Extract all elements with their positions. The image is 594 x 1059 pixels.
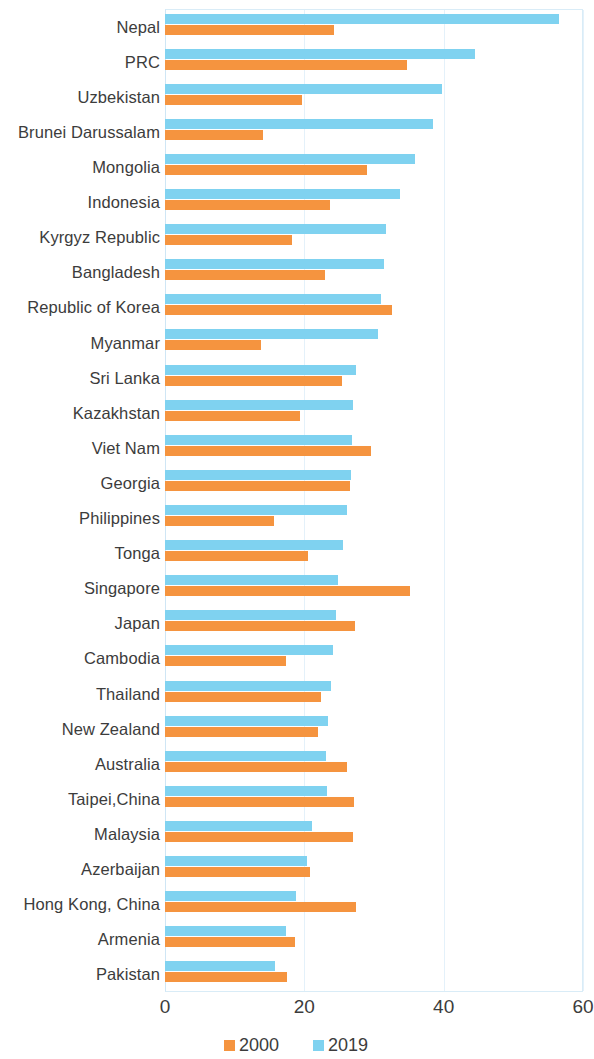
category-label: Thailand	[96, 684, 160, 703]
category-label: PRC	[125, 52, 160, 71]
category-label: Georgia	[101, 473, 160, 492]
chart-row: Thailand	[0, 676, 592, 711]
bar-2000	[165, 551, 308, 561]
bar-2000	[165, 446, 371, 456]
bar-2000	[165, 902, 356, 912]
x-axis: 0204060	[0, 996, 592, 1026]
bar-2019	[165, 84, 442, 94]
bar-2000	[165, 235, 292, 245]
legend-label: 2000	[239, 1035, 279, 1056]
category-label: Hong Kong, China	[24, 895, 160, 914]
bar-2000	[165, 376, 342, 386]
bar-2019	[165, 751, 326, 761]
chart-row: Armenia	[0, 922, 592, 957]
bar-2019	[165, 224, 386, 234]
legend-entry-2019[interactable]: 2019	[313, 1035, 368, 1056]
chart-row: Bangladesh	[0, 255, 592, 290]
category-label: New Zealand	[62, 719, 160, 738]
chart-row: Myanmar	[0, 325, 592, 360]
category-label: Kazakhstan	[73, 403, 160, 422]
bar-2019	[165, 189, 400, 199]
category-label: Nepal	[116, 17, 160, 36]
bar-2019	[165, 400, 353, 410]
chart-row: Philippines	[0, 501, 592, 536]
chart-row: Mongolia	[0, 149, 592, 184]
bar-2019	[165, 645, 333, 655]
bar-2000	[165, 270, 325, 280]
chart-row: Georgia	[0, 465, 592, 500]
category-label: Armenia	[98, 930, 160, 949]
category-label: Indonesia	[88, 193, 160, 212]
chart-row: Singapore	[0, 571, 592, 606]
bar-2019	[165, 329, 378, 339]
chart-row: Pakistan	[0, 957, 592, 992]
category-label: Sri Lanka	[89, 368, 160, 387]
bar-2000	[165, 165, 367, 175]
bar-2019	[165, 891, 296, 901]
bar-2019	[165, 49, 475, 59]
category-label: Myanmar	[91, 333, 160, 352]
bar-2000	[165, 692, 321, 702]
category-label: Uzbekistan	[77, 87, 160, 106]
bar-2000	[165, 411, 300, 421]
chart-row: Viet Nam	[0, 430, 592, 465]
category-label: Brunei Darussalam	[18, 122, 160, 141]
bar-2000	[165, 656, 286, 666]
bar-2019	[165, 435, 352, 445]
bar-2000	[165, 305, 392, 315]
category-label: Singapore	[84, 579, 160, 598]
x-tick-label: 60	[572, 996, 593, 1018]
bar-2000	[165, 797, 354, 807]
bar-2019	[165, 856, 307, 866]
bar-2000	[165, 25, 334, 35]
chart-rows: NepalPRCUzbekistanBrunei DarussalamMongo…	[0, 9, 592, 992]
category-label: Viet Nam	[92, 438, 160, 457]
bar-2019	[165, 716, 328, 726]
chart-row: New Zealand	[0, 711, 592, 746]
x-tick-label: 20	[294, 996, 315, 1018]
category-label: Azerbaijan	[81, 860, 160, 879]
bar-2000	[165, 60, 407, 70]
bar-2000	[165, 621, 355, 631]
legend-swatch-icon	[313, 1040, 324, 1051]
bar-2019	[165, 786, 327, 796]
bar-2000	[165, 937, 295, 947]
bar-2000	[165, 200, 330, 210]
chart-legend: 20002019	[0, 1031, 592, 1059]
legend-entry-2000[interactable]: 2000	[224, 1035, 279, 1056]
category-label: Taipei,China	[68, 789, 160, 808]
bar-2019	[165, 540, 343, 550]
category-label: Cambodia	[84, 649, 160, 668]
chart-row: Republic of Korea	[0, 290, 592, 325]
bar-2019	[165, 119, 433, 129]
chart-row: Australia	[0, 746, 592, 781]
legend-label: 2019	[328, 1035, 368, 1056]
category-label: Bangladesh	[72, 263, 160, 282]
legend-swatch-icon	[224, 1040, 235, 1051]
bar-2019	[165, 470, 351, 480]
bar-2019	[165, 154, 415, 164]
category-label: Australia	[95, 754, 160, 773]
bar-2000	[165, 95, 302, 105]
chart-row: Sri Lanka	[0, 360, 592, 395]
bar-2019	[165, 961, 275, 971]
bar-2000	[165, 586, 410, 596]
bar-2000	[165, 727, 318, 737]
chart-row: Azerbaijan	[0, 852, 592, 887]
bar-2000	[165, 481, 350, 491]
bar-2019	[165, 575, 338, 585]
bar-2000	[165, 972, 287, 982]
chart-row: PRC	[0, 44, 592, 79]
bar-2019	[165, 365, 356, 375]
bar-2019	[165, 681, 331, 691]
bar-2019	[165, 259, 384, 269]
chart-row: Indonesia	[0, 185, 592, 220]
category-label: Japan	[115, 614, 160, 633]
bar-2019	[165, 610, 336, 620]
chart-row: Brunei Darussalam	[0, 114, 592, 149]
category-label: Tonga	[115, 544, 160, 563]
bar-2000	[165, 867, 310, 877]
chart-row: Japan	[0, 606, 592, 641]
bar-2000	[165, 516, 274, 526]
